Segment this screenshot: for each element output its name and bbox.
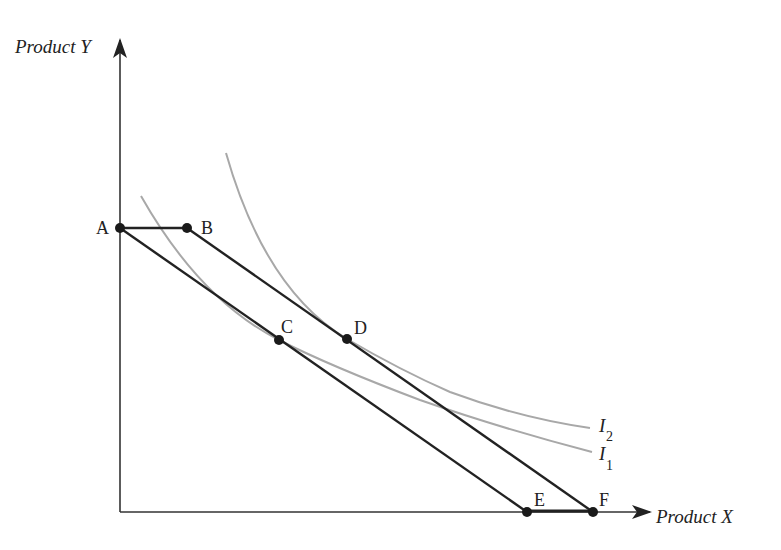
indifference-curve-i2: [226, 153, 590, 428]
point-d: [342, 334, 352, 344]
budget-line-ae: [120, 228, 527, 512]
x-axis-label: Product X: [655, 506, 734, 527]
curve-label-i2-sub: 2: [606, 429, 613, 444]
point-a: [115, 223, 125, 233]
label-d: D: [354, 318, 367, 338]
point-f: [588, 507, 598, 517]
label-e: E: [534, 490, 545, 510]
label-f: F: [599, 490, 609, 510]
budget-line-bf: [187, 228, 593, 512]
diagram-canvas: A B C D E F Product Y Product X I 2 I 1: [0, 0, 781, 550]
curve-label-i1-sub: 1: [606, 458, 613, 473]
label-c: C: [281, 317, 293, 337]
point-b: [182, 223, 192, 233]
point-e: [522, 507, 532, 517]
label-b: B: [201, 218, 213, 238]
label-a: A: [96, 218, 109, 238]
y-axis-label: Product Y: [14, 36, 93, 57]
